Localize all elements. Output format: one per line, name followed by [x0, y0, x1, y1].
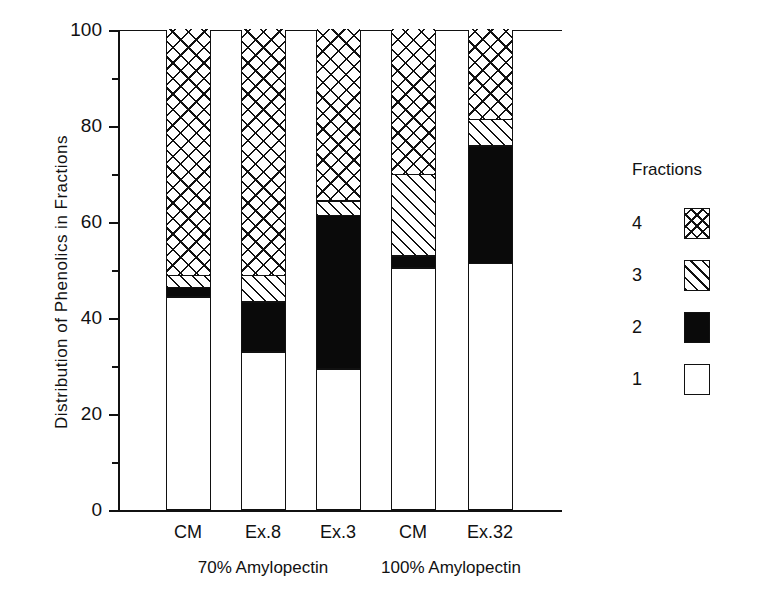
- x-tick-label-ex8: Ex.8: [245, 522, 281, 543]
- y-axis-title: Distribution of Phenolics in Fractions: [52, 72, 72, 492]
- bar-segment-fraction-1: [242, 353, 285, 509]
- bar-segment-divider: [242, 351, 285, 353]
- bar-segment-fraction-1: [167, 298, 210, 509]
- x-tick-label-ex32: Ex.32: [467, 522, 513, 543]
- y-tick-60: 60: [109, 222, 120, 224]
- bar-segment-divider: [242, 301, 285, 303]
- y-tick-label-60: 60: [81, 212, 102, 231]
- legend-title: Fractions: [632, 160, 762, 180]
- bar-segment-divider: [242, 275, 285, 277]
- legend-swatch-hatch-icon: [684, 260, 710, 291]
- bar-ex8-70[interactable]: [241, 30, 286, 510]
- bar-segment-fraction-2: [242, 303, 285, 353]
- legend-swatch-white-icon: [684, 364, 710, 395]
- bar-segment-divider: [317, 215, 360, 217]
- bar-segment-divider: [167, 287, 210, 289]
- y-tick-label-100: 100: [70, 20, 102, 39]
- bar-ex3-70[interactable]: [316, 30, 361, 510]
- y-tick-label-20: 20: [81, 404, 102, 423]
- legend-item-4[interactable]: 4: [632, 206, 762, 240]
- y-tick-40: 40: [109, 318, 120, 320]
- y-minor-tick-70: [112, 174, 120, 176]
- bar-segment-fraction-4: [242, 29, 285, 276]
- legend-item-3[interactable]: 3: [632, 258, 762, 292]
- y-tick-label-80: 80: [81, 116, 102, 135]
- legend-label-4: 4: [632, 213, 658, 234]
- y-tick-0: 0: [109, 510, 120, 512]
- bar-segment-fraction-1: [469, 264, 512, 509]
- bar-segment-fraction-4: [469, 29, 512, 120]
- legend-item-1[interactable]: 1: [632, 362, 762, 396]
- bar-segment-fraction-4: [317, 29, 360, 202]
- legend-label-2: 2: [632, 317, 658, 338]
- bar-segment-fraction-3: [469, 120, 512, 146]
- x-tick-label-cm-70: CM: [174, 522, 202, 543]
- bar-segment-divider: [469, 119, 512, 121]
- y-minor-tick-10: [112, 462, 120, 464]
- bar-segment-divider: [392, 267, 435, 269]
- bar-segment-divider: [317, 200, 360, 202]
- bar-segment-fraction-2: [469, 147, 512, 265]
- bar-cm-70[interactable]: [166, 30, 211, 510]
- bar-segment-fraction-2: [317, 216, 360, 370]
- legend-label-1: 1: [632, 369, 658, 390]
- chart-figure: Distribution of Phenolics in Fractions 1…: [0, 0, 773, 596]
- legend: Fractions 4 3 2 1: [632, 160, 762, 414]
- y-minor-tick-50: [112, 270, 120, 272]
- y-tick-label-0: 0: [91, 500, 102, 519]
- bar-segment-fraction-1: [392, 269, 435, 509]
- y-minor-tick-30: [112, 366, 120, 368]
- y-tick-100: 100: [109, 30, 120, 32]
- y-tick-label-40: 40: [81, 308, 102, 327]
- bar-ex32-100[interactable]: [468, 30, 513, 510]
- legend-item-2[interactable]: 2: [632, 310, 762, 344]
- legend-swatch-black-icon: [684, 312, 710, 343]
- group-label-100: 100% Amylopectin: [381, 558, 521, 578]
- x-axis-line: [118, 510, 562, 512]
- y-tick-80: 80: [109, 126, 120, 128]
- bar-cm-100[interactable]: [391, 30, 436, 510]
- bar-segment-divider: [167, 275, 210, 277]
- legend-swatch-crosshatch-icon: [684, 208, 710, 239]
- bar-segment-fraction-4: [392, 29, 435, 175]
- bar-segment-divider: [392, 255, 435, 257]
- bar-segment-fraction-3: [242, 276, 285, 302]
- y-tick-20: 20: [109, 414, 120, 416]
- bar-segment-divider: [469, 145, 512, 147]
- legend-label-3: 3: [632, 265, 658, 286]
- plot-area: 100 80 60 40 20 0 CM Ex.8 Ex.3: [118, 30, 562, 512]
- y-minor-tick-90: [112, 78, 120, 80]
- bar-segment-fraction-1: [317, 370, 360, 509]
- bar-segment-fraction-3: [392, 175, 435, 257]
- bar-segment-divider: [392, 174, 435, 176]
- bar-segment-divider: [317, 368, 360, 370]
- bar-segment-fraction-4: [167, 29, 210, 276]
- x-tick-label-cm-100: CM: [399, 522, 427, 543]
- x-tick-label-ex3: Ex.3: [320, 522, 356, 543]
- bar-segment-divider: [167, 296, 210, 298]
- bar-segment-divider: [469, 263, 512, 265]
- group-label-70: 70% Amylopectin: [198, 558, 328, 578]
